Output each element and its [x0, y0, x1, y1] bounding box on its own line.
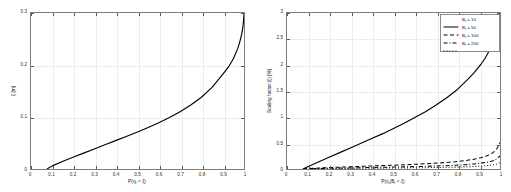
x-tick-label: 0.9: [220, 173, 226, 178]
y-tick-label: 0: [264, 168, 283, 173]
axis-tick-y: [287, 39, 290, 40]
x-tick-label: 0.8: [455, 173, 461, 178]
y-tick-label: 0.5: [264, 141, 283, 146]
axis-tick-x: [117, 166, 118, 169]
axis-tick-x: [31, 166, 32, 169]
axis-tick-x: [416, 13, 417, 16]
axis-tick-x: [459, 166, 460, 169]
y-tick-label: 3: [264, 10, 283, 15]
axis-tick-x: [309, 166, 310, 169]
panel-a-curve-xi: [31, 13, 244, 169]
legend: Br = 10Br = 50Br = 100Br = 200: [440, 14, 500, 52]
legend-item-label: Br = 50: [462, 26, 476, 31]
axis-tick-y: [31, 118, 34, 119]
legend-item[interactable]: Br = 100: [443, 33, 496, 41]
y-tick-label: 1: [264, 115, 283, 120]
legend-item[interactable]: Br = 50: [443, 25, 496, 33]
legend-item[interactable]: Br = 10: [443, 17, 496, 25]
y-tick-label: 0.2: [8, 62, 27, 67]
x-tick-label: 0.7: [433, 173, 439, 178]
legend-item-label: Br = 100: [462, 34, 478, 39]
panel-a-plot-area: [30, 12, 245, 170]
axis-tick-x: [225, 166, 226, 169]
axis-tick-x: [330, 166, 331, 169]
axis-tick-y: [241, 13, 244, 14]
axis-tick-y: [241, 66, 244, 67]
legend-value: = 200: [466, 41, 478, 46]
axis-tick-x: [160, 166, 161, 169]
legend-item-label: Br = 200: [462, 42, 478, 47]
x-tick-label: 0.3: [91, 173, 97, 178]
x-tick-label: 0.6: [156, 173, 162, 178]
axis-tick-y: [497, 66, 500, 67]
x-tick-label: 0.2: [70, 173, 76, 178]
axis-tick-x: [352, 166, 353, 169]
legend-line-swatch-dashdot: [443, 33, 459, 41]
axis-tick-x: [481, 166, 482, 169]
y-tick-label: 2: [264, 62, 283, 67]
legend-line-swatch-solid: [443, 17, 459, 25]
legend-value: = 100: [466, 33, 478, 38]
axis-tick-x: [438, 166, 439, 169]
legend-item-label: Br = 10: [462, 18, 476, 23]
series-xi: [47, 13, 244, 169]
x-tick-label: 0.1: [304, 173, 310, 178]
axis-tick-y: [497, 118, 500, 119]
axis-tick-y: [287, 66, 290, 67]
axis-tick-x: [203, 13, 204, 16]
x-tick-label: 1: [500, 173, 503, 178]
x-tick-label: 0.4: [113, 173, 119, 178]
x-tick-label: 0.9: [476, 173, 482, 178]
axis-tick-x: [373, 13, 374, 16]
axis-tick-x: [438, 13, 439, 16]
x-tick-label: 0: [29, 173, 32, 178]
y-tick-label: 0: [8, 168, 27, 173]
panel-b-y-axis-title: Scaling factor (ξ) [%]: [268, 69, 273, 113]
y-tick-label: 0.3: [8, 10, 27, 15]
axis-tick-y: [287, 118, 290, 119]
axis-tick-x: [160, 13, 161, 16]
y-tick-label: 0.1: [8, 115, 27, 120]
axis-tick-x: [117, 13, 118, 16]
axis-tick-x: [139, 166, 140, 169]
axis-tick-y: [497, 92, 500, 93]
axis-tick-x: [74, 13, 75, 16]
axis-tick-x: [352, 13, 353, 16]
axis-tick-x: [225, 13, 226, 16]
axis-tick-x: [96, 13, 97, 16]
x-tick-label: 0.5: [134, 173, 140, 178]
panel-a-y-axis-title: ξ [m]: [12, 86, 17, 96]
panel-a-x-axis-title: P(ηr < ξ): [128, 180, 146, 185]
axis-tick-x: [309, 13, 310, 16]
x-tick-label: 0: [285, 173, 288, 178]
axis-tick-y: [31, 13, 34, 14]
x-tick-label: 0.2: [326, 173, 332, 178]
legend-line-swatch-dotted: [443, 41, 459, 49]
x-tick-label: 0.8: [199, 173, 205, 178]
x-tick-label: 1: [244, 173, 247, 178]
axis-tick-y: [31, 66, 34, 67]
axis-tick-y: [287, 145, 290, 146]
x-tick-label: 0.6: [412, 173, 418, 178]
axis-tick-x: [139, 13, 140, 16]
panel-a: A 00.10.20.30.40.50.60.70.80.91 00.10.20…: [0, 0, 256, 192]
x-tick-label: 0.5: [390, 173, 396, 178]
y-tick-label: 2.5: [264, 36, 283, 41]
x-tick-label: 0.7: [177, 173, 183, 178]
axis-tick-x: [287, 166, 288, 169]
legend-item[interactable]: Br = 200: [443, 41, 496, 49]
axis-tick-y: [241, 118, 244, 119]
figure-two-panel-chart: A 00.10.20.30.40.50.60.70.80.91 00.10.20…: [0, 0, 511, 192]
axis-tick-x: [395, 13, 396, 16]
x-tick-label: 0.3: [347, 173, 353, 178]
legend-line-swatch-dashed: [443, 25, 459, 33]
axis-tick-y: [287, 13, 290, 14]
axis-tick-y: [497, 145, 500, 146]
axis-tick-x: [395, 166, 396, 169]
axis-tick-x: [53, 166, 54, 169]
axis-tick-x: [416, 166, 417, 169]
panel-b-x-axis-title: P(ηr|Br < ξ): [381, 180, 404, 185]
legend-value: = 50: [466, 25, 476, 30]
axis-tick-x: [96, 166, 97, 169]
axis-tick-x: [373, 166, 374, 169]
